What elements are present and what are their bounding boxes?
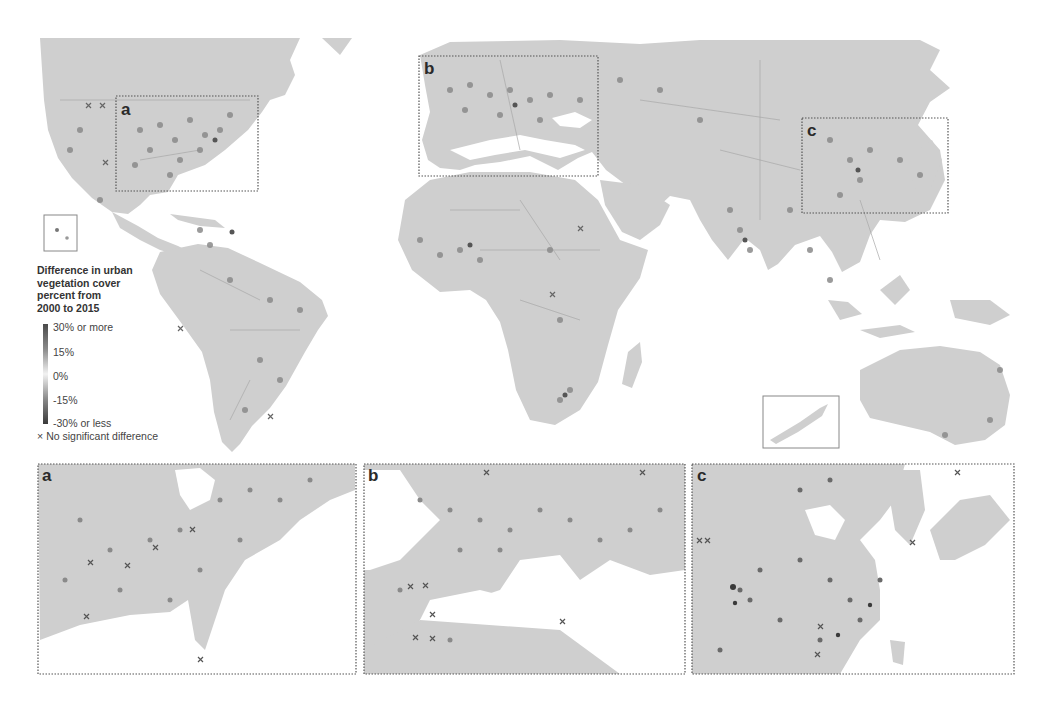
legend-title-line: 2000 to 2015 (37, 302, 197, 315)
inset-label-b: b (424, 60, 434, 77)
panel-b-map (364, 464, 685, 674)
panel-label-a: a (42, 467, 51, 484)
legend-tick-max: 30% or more (53, 322, 113, 333)
legend-title-line: Difference in urban (37, 264, 197, 277)
legend-color-scale: 30% or more 15% 0% -15% -30% or less (37, 322, 197, 426)
legend-title: Difference in urban vegetation cover per… (37, 264, 197, 314)
inset-label-c: c (807, 122, 816, 139)
legend-tick-0: 0% (53, 371, 68, 382)
australia (860, 346, 1010, 445)
panel-label-b: b (368, 467, 378, 484)
legend-title-line: percent from (37, 289, 197, 302)
panel-a-map (38, 464, 355, 662)
legend: Difference in urban vegetation cover per… (37, 264, 197, 442)
urban-vegetation-map-figure: a b c a b c Difference in urban vegetati… (0, 0, 1047, 704)
north-america (40, 38, 300, 214)
legend-tick-neg15: -15% (53, 395, 78, 406)
panel-label-c: c (697, 467, 706, 484)
legend-gradient-bar (43, 324, 48, 424)
inset-label-a: a (121, 101, 130, 118)
legend-tick-min: -30% or less (53, 418, 111, 429)
legend-no-sig-label: No significant difference (46, 430, 158, 442)
cross-icon: × (37, 430, 43, 442)
panel-c-map (692, 464, 1010, 674)
legend-tick-15: 15% (53, 347, 74, 358)
legend-no-significance: ×No significant difference (37, 430, 197, 442)
hawaii-inset (44, 215, 77, 251)
legend-title-line: vegetation cover (37, 277, 197, 290)
